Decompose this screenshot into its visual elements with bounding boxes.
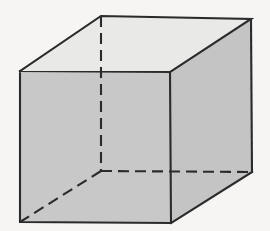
cube-figure [0, 0, 270, 231]
cube-svg [0, 0, 270, 231]
cube-front-face [20, 71, 171, 223]
cube-right-back-vertical-edge [251, 19, 252, 172]
cube-hidden-edge-horizontal [101, 171, 252, 172]
